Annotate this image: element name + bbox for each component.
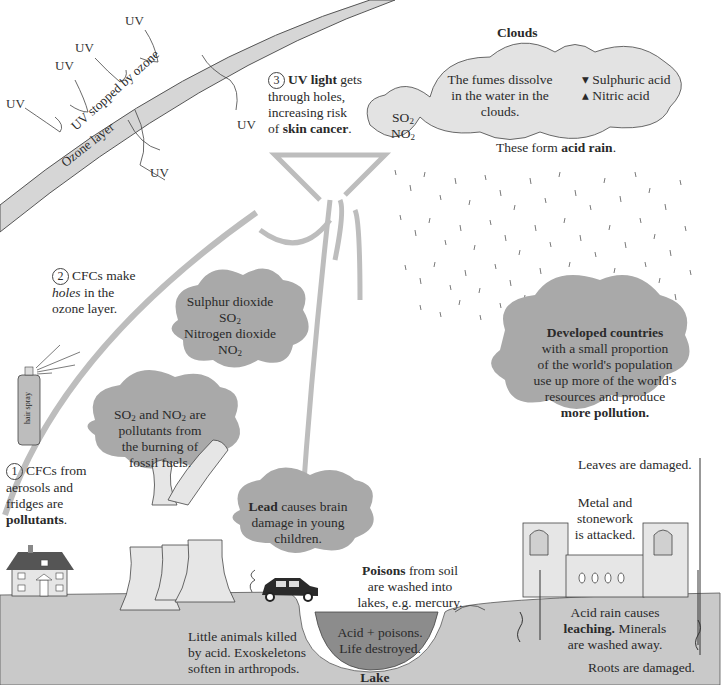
- uv-label: UV: [150, 165, 169, 181]
- metal-label: Metal and stonework is attacked.: [560, 495, 650, 543]
- roots-label: Roots are damaged.: [588, 660, 695, 676]
- animals-label: Little animals killed by acid. Exoskelet…: [188, 629, 306, 677]
- leaching-label: Acid rain causes leaching. Minerals are …: [555, 605, 675, 653]
- clouds-title: Clouds: [497, 25, 538, 41]
- step-2-text: 2CFCs make holes in the ozone layer.: [52, 268, 135, 317]
- step-number-1: 1: [6, 463, 23, 480]
- arrow-icon: ▴: [582, 88, 592, 103]
- hair-spray-label: hair spray: [20, 392, 36, 424]
- right-cloud-text: ▾ Sulphuric acid ▴ Nitric acid: [582, 72, 671, 104]
- acid-rain-caption: These form acid rain.: [496, 140, 616, 156]
- arrow-icon: ▾: [582, 72, 592, 87]
- step-3-text: 3UV light gets through holes, increasing…: [268, 72, 362, 137]
- lead-cloud-text: Lead causes brain damage in young childr…: [238, 499, 358, 547]
- uv-label: UV: [6, 96, 25, 112]
- uv-label: UV: [125, 13, 144, 29]
- step-number-3: 3: [268, 72, 285, 89]
- uv-label: UV: [75, 40, 94, 56]
- small-cloud-text: SO2 NO2: [383, 110, 423, 142]
- house: [6, 545, 74, 596]
- leaves-label: Leaves are damaged.: [578, 457, 692, 473]
- uv-label: UV: [237, 117, 256, 133]
- gas-cloud-text: Sulphur dioxide SO2 Nitrogen dioxide NO2: [170, 294, 290, 358]
- middle-cloud-text: The fumes dissolve in the water in the c…: [435, 72, 565, 120]
- fossil-cloud-text: SO2 and NO2 are pollutants from the burn…: [100, 407, 220, 471]
- developed-cloud-text: Developed countries with a small proport…: [520, 325, 690, 421]
- lake-label: Lake: [355, 670, 395, 685]
- step-1-text: 1CFCs from aerosols and fridges are poll…: [6, 463, 86, 528]
- lake-text: Acid + poisons. Life destroyed.: [325, 625, 435, 657]
- uv-label: UV: [55, 58, 74, 74]
- step-number-2: 2: [52, 268, 69, 285]
- poisons-label: Poisons from soil are washed into lakes,…: [340, 563, 480, 611]
